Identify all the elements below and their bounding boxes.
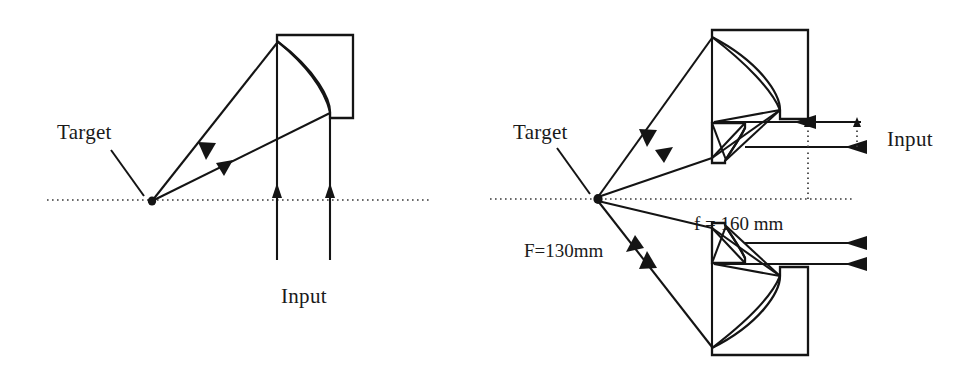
right-upper-primary-reflecting-surface — [712, 37, 780, 110]
left-input-arrowhead-b — [325, 183, 335, 198]
right-lower-output-arrowhead-a — [845, 257, 867, 271]
left-reflected-ray-a — [152, 43, 277, 201]
right-lower-converging-arrowhead-b — [626, 235, 644, 252]
right-lower-converging-arrowhead-a — [639, 251, 657, 269]
right-target-focal-point — [593, 194, 602, 204]
right-lower-primary-mirror-body — [712, 267, 808, 355]
right-upper-fold-ray-d — [712, 123, 745, 158]
left-reflected-arrowhead-a — [198, 142, 216, 160]
left-target-label: Target — [57, 120, 112, 144]
right-upper-converging-ray-b — [598, 158, 712, 197]
left-input-label: Input — [281, 284, 327, 308]
right-upper-converging-arrowhead-a — [639, 129, 657, 147]
optical-diagram-figure: Target Input — [0, 0, 973, 385]
right-diagram-group: Target Input F=130mm f = 160 mm — [490, 30, 933, 355]
right-upper-input-arrowhead-b — [845, 140, 867, 154]
right-upper-converging-ray-a — [598, 38, 712, 197]
right-upper-primary-mirror-body — [712, 30, 808, 119]
optical-diagram-canvas: Target Input — [0, 0, 973, 385]
right-secondary-focal-length-label: f = 160 mm — [694, 213, 784, 234]
right-upper-converging-arrowhead-b — [655, 147, 673, 163]
right-target-leader-line — [557, 148, 590, 194]
left-target-focal-point — [148, 196, 156, 205]
left-input-arrowhead-a — [272, 183, 282, 198]
right-target-label: Target — [513, 120, 568, 144]
left-mirror-body — [277, 35, 353, 118]
right-primary-focal-length-label: F=130mm — [524, 240, 604, 261]
right-input-label: Input — [887, 127, 933, 151]
left-reflected-ray-b — [152, 113, 330, 201]
left-target-leader-line — [111, 150, 144, 196]
right-lower-primary-reflecting-surface — [712, 276, 780, 348]
right-lower-output-arrowhead-b — [845, 236, 867, 250]
left-mirror-reflecting-surface — [277, 41, 330, 112]
left-diagram-group: Target Input — [47, 35, 432, 308]
